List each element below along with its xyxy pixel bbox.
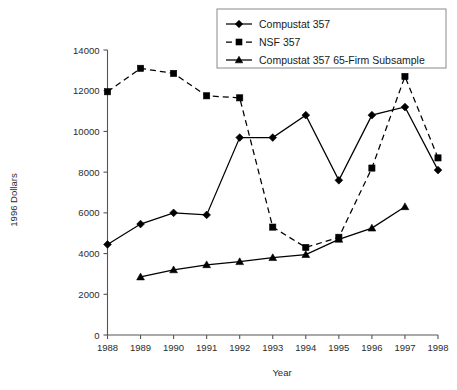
- series-line: [141, 207, 405, 277]
- data-series-group: [104, 65, 442, 280]
- chart-legend: Compustat 357NSF 357Compustat 357 65-Fir…: [217, 9, 446, 68]
- series-3: [137, 203, 409, 280]
- data-point-diamond: [170, 209, 178, 217]
- data-point-diamond: [368, 111, 376, 119]
- y-axis-tick-label: 0: [94, 330, 99, 341]
- y-axis-tick-label: 6000: [78, 207, 99, 218]
- x-axis-tick-label: 1995: [328, 342, 349, 353]
- data-point-diamond: [302, 111, 310, 119]
- y-axis-tick-label: 10000: [73, 126, 99, 137]
- x-axis-tick-label: 1993: [262, 342, 283, 353]
- data-point-triangle: [401, 203, 409, 210]
- data-point-diamond: [434, 166, 442, 174]
- x-axis-tick-label: 1998: [427, 342, 448, 353]
- y-axis-tick-label: 4000: [78, 248, 99, 259]
- data-point-square: [270, 224, 276, 230]
- data-point-diamond: [236, 134, 244, 142]
- data-point-square: [137, 65, 143, 71]
- x-axis-title: Year: [272, 367, 291, 378]
- data-point-triangle: [302, 251, 310, 258]
- x-axis-tick-label: 1991: [196, 342, 217, 353]
- data-point-square: [236, 39, 242, 45]
- line-chart: 02000400060008000100001200014000 1988198…: [0, 0, 457, 390]
- x-axis: 1988198919901991199219931994199519961997…: [97, 335, 449, 353]
- legend-label: Compustat 357: [259, 18, 330, 30]
- y-axis-tick-label: 8000: [78, 167, 99, 178]
- y-axis-title: 1996 Dollars: [8, 173, 19, 227]
- x-axis-tick-label: 1992: [229, 342, 250, 353]
- data-point-square: [303, 244, 309, 250]
- chart-container: 02000400060008000100001200014000 1988198…: [0, 0, 457, 390]
- x-axis-tick-label: 1988: [97, 342, 118, 353]
- x-axis-tick-label: 1990: [163, 342, 184, 353]
- legend-label: Compustat 357 65-Firm Subsample: [259, 54, 425, 66]
- y-axis: 02000400060008000100001200014000: [73, 45, 107, 341]
- data-point-diamond: [137, 220, 145, 228]
- x-axis-tick-label: 1989: [130, 342, 151, 353]
- data-point-square: [104, 89, 110, 95]
- y-axis-tick-label: 2000: [78, 289, 99, 300]
- y-axis-tick-label: 12000: [73, 85, 99, 96]
- legend-label: NSF 357: [259, 36, 301, 48]
- data-point-diamond: [401, 103, 409, 111]
- y-axis-tick-label: 14000: [73, 45, 99, 56]
- x-axis-tick-label: 1997: [394, 342, 415, 353]
- data-point-diamond: [269, 134, 277, 142]
- series-2: [104, 65, 441, 250]
- data-point-square: [204, 93, 210, 99]
- series-line: [108, 68, 439, 247]
- data-point-square: [435, 155, 441, 161]
- data-point-square: [171, 70, 177, 76]
- data-point-square: [237, 95, 243, 101]
- data-point-diamond: [104, 241, 112, 249]
- data-point-diamond: [335, 176, 343, 184]
- data-point-diamond: [203, 211, 211, 219]
- data-point-triangle: [368, 224, 376, 231]
- data-point-square: [369, 165, 375, 171]
- x-axis-tick-label: 1996: [361, 342, 382, 353]
- x-axis-tick-label: 1994: [295, 342, 316, 353]
- data-point-square: [402, 73, 408, 79]
